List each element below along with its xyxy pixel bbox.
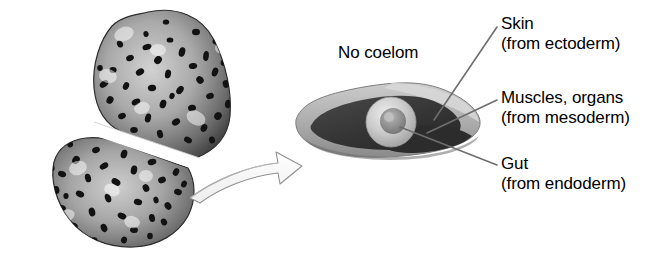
no-coelom-text: No coelom	[338, 43, 418, 63]
muscles-title: Muscles, organs	[501, 88, 630, 108]
gut-structure	[366, 97, 416, 147]
figure-root: No coelom Skin (from ectoderm) Muscles, …	[0, 0, 668, 255]
label-skin: Skin (from ectoderm)	[501, 14, 620, 54]
label-muscles: Muscles, organs (from mesoderm)	[501, 88, 630, 128]
label-no-coelom: No coelom	[338, 43, 418, 63]
curved-pointer-arrow	[190, 152, 302, 203]
gut-title: Gut	[501, 154, 626, 174]
label-gut: Gut (from endoderm)	[501, 154, 626, 194]
muscles-source: (from mesoderm)	[501, 108, 630, 128]
gut-source: (from endoderm)	[501, 174, 626, 194]
skin-source: (from ectoderm)	[501, 34, 620, 54]
skin-title: Skin	[501, 14, 620, 34]
